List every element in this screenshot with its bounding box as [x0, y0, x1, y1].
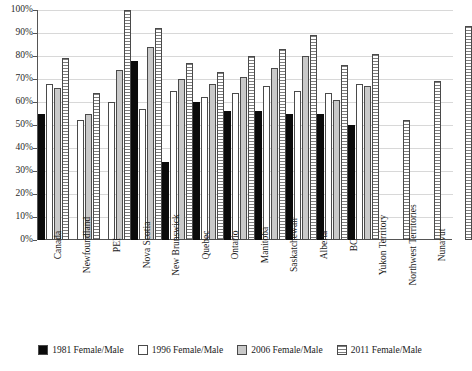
bar-group [255, 10, 286, 240]
bar-group [441, 10, 472, 240]
bar-group [286, 10, 317, 240]
bar [263, 86, 270, 240]
bar [201, 97, 208, 240]
x-axis-tick-label: Nunavut [437, 229, 447, 262]
x-axis-label-cell: Northwest Territories [393, 243, 423, 338]
x-axis-label-cell: New Brunswick [156, 243, 186, 338]
x-axis-label-cell: Saskatchewan [275, 243, 305, 338]
bar [186, 63, 193, 240]
legend-label: 2011 Female/Male [351, 345, 422, 355]
x-axis-tick-label: New Brunswick [171, 214, 181, 275]
y-axis-tick-label: 50% [0, 120, 33, 130]
y-axis-tick-label: 10% [0, 212, 33, 222]
x-axis-label-cell: Newfoundland [68, 243, 98, 338]
bar [162, 162, 169, 240]
bar [325, 93, 332, 240]
x-axis-tick-label: Northwest Territories [408, 204, 418, 285]
legend-label: 1981 Female/Male [52, 345, 124, 355]
bar [302, 56, 309, 240]
x-axis-label-cell: Manitoba [245, 243, 275, 338]
x-axis-tick-label: Saskatchewan [289, 218, 299, 272]
bar [356, 84, 363, 240]
x-axis-label-cell: BC [334, 243, 364, 338]
bar [465, 26, 472, 240]
bar [255, 111, 262, 240]
x-axis-tick-label: BC [349, 239, 359, 252]
bar [147, 47, 154, 240]
x-axis-label-cell: Nunavut [423, 243, 453, 338]
x-axis-label-cell: Quebec [186, 243, 216, 338]
bar [310, 35, 317, 240]
bar [139, 109, 146, 240]
bar [240, 77, 247, 240]
bar [116, 70, 123, 240]
bar [108, 102, 115, 240]
bar [131, 61, 138, 240]
bar [271, 68, 278, 241]
bar [193, 102, 200, 240]
bar [217, 72, 224, 240]
bar-group [38, 10, 69, 240]
y-axis-tick-label: 60% [0, 97, 33, 107]
y-axis-tick-label: 20% [0, 189, 33, 199]
bar-group [379, 10, 410, 240]
y-axis-tick-mark [33, 240, 37, 241]
bar-group [193, 10, 224, 240]
bar-group [317, 10, 348, 240]
x-axis-label-cell: Nova Scotia [127, 243, 157, 338]
x-axis-tick-label: Nova Scotia [142, 222, 152, 269]
bar [279, 49, 286, 240]
bar [341, 65, 348, 240]
bar [333, 100, 340, 240]
bar [62, 58, 69, 240]
bar [124, 10, 131, 240]
y-axis-tick-label: 40% [0, 143, 33, 153]
bar [232, 93, 239, 240]
x-axis-label-cell: PEI [97, 243, 127, 338]
legend-label: 1996 Female/Male [152, 345, 224, 355]
legend-swatch-icon [337, 345, 347, 355]
bar-group [348, 10, 379, 240]
x-axis-labels: CanadaNewfoundlandPEINova ScotiaNew Brun… [38, 243, 452, 338]
legend-label: 2006 Female/Male [251, 345, 323, 355]
x-axis-label-cell: Canada [38, 243, 68, 338]
legend-swatch-icon [237, 345, 247, 355]
x-axis-label-cell: Yukon Territory [363, 243, 393, 338]
y-axis-tick-label: 0% [0, 235, 33, 245]
bar-group [162, 10, 193, 240]
bar [364, 86, 371, 240]
bar-group [224, 10, 255, 240]
legend-swatch-icon [138, 345, 148, 355]
chart-legend: 1981 Female/Male1996 Female/Male2006 Fem… [0, 345, 460, 355]
bar-group [69, 10, 100, 240]
legend-item: 2006 Female/Male [237, 345, 323, 355]
bar [46, 84, 53, 240]
x-axis-tick-label: Quebec [201, 230, 211, 259]
bar [209, 84, 216, 240]
legend-swatch-icon [38, 345, 48, 355]
x-axis-tick-label: Yukon Territory [378, 215, 388, 276]
x-axis-tick-label: PEI [112, 238, 122, 252]
x-axis-tick-label: Ontario [230, 230, 240, 259]
legend-item: 1996 Female/Male [138, 345, 224, 355]
bar [93, 93, 100, 240]
bar [38, 114, 45, 241]
x-axis-tick-label: Newfoundland [82, 217, 92, 273]
x-axis-tick-label: Alberta [319, 231, 329, 260]
bar-group [100, 10, 131, 240]
legend-item: 1981 Female/Male [38, 345, 124, 355]
y-axis-tick-label: 70% [0, 74, 33, 84]
bar [434, 81, 441, 240]
legend-item: 2011 Female/Male [337, 345, 422, 355]
x-axis-tick-label: Canada [53, 231, 63, 260]
y-axis-tick-label: 80% [0, 51, 33, 61]
bar-group [131, 10, 162, 240]
bar [155, 28, 162, 240]
bar [224, 111, 231, 240]
bar [372, 54, 379, 240]
y-axis-tick-label: 30% [0, 166, 33, 176]
x-axis-label-cell: Alberta [304, 243, 334, 338]
y-axis-tick-label: 90% [0, 28, 33, 38]
bar [54, 88, 61, 240]
